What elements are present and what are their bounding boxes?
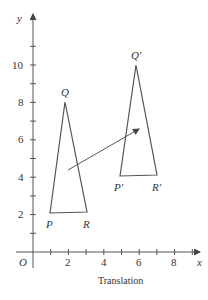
vertex-label-r-prime: R'	[151, 181, 162, 193]
triangle-pqr-prime: P' Q' R'	[113, 49, 162, 193]
figure-caption: Translation	[98, 275, 143, 286]
triangle-pqr: P Q R	[45, 86, 90, 230]
y-tick-label: 8	[18, 96, 24, 108]
origin-label: O	[19, 256, 27, 268]
x-tick-label: 8	[171, 256, 177, 268]
y-tick-label: 10	[12, 59, 24, 71]
y-tick-label: 2	[18, 208, 24, 220]
y-axis-label: y	[16, 12, 22, 24]
x-axis-label: x	[196, 256, 202, 268]
x-tick-label: 4	[101, 256, 107, 268]
translation-diagram: x y O 2 4 6 8 2 4 6 8 10 P Q R P' Q' R' …	[0, 0, 208, 300]
vertex-label-p-prime: P'	[113, 181, 124, 193]
x-tick-label: 6	[136, 256, 142, 268]
vertex-label-q-prime: Q'	[131, 49, 142, 61]
vertex-label-r: R	[82, 218, 90, 230]
y-tick-label: 6	[18, 133, 24, 145]
y-tick-label: 4	[18, 171, 24, 183]
x-tick-label: 2	[65, 256, 71, 268]
vertex-label-p: P	[45, 218, 53, 230]
vertex-label-q: Q	[61, 86, 69, 98]
translation-arrow	[68, 129, 139, 170]
axes: x y O 2 4 6 8 2 4 6 8 10	[12, 12, 202, 268]
